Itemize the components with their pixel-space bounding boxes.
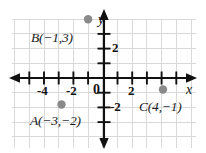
x-axis-label: x (186, 83, 192, 97)
y-axis-arrow-down (99, 138, 108, 149)
plotted-point-c (159, 85, 167, 93)
point-label-b: B(−1,3) (31, 31, 73, 45)
plotted-point-a (57, 100, 65, 108)
x-tick-label-neg2: -2 (66, 84, 77, 97)
coordinate-plane-figure: y x -4 -2 0 2 2 -2 B(−1,3) A(−3,−2) C(4,… (0, 0, 206, 153)
y-axis-label: y (98, 13, 104, 27)
y-tick-label-neg2: -2 (110, 100, 121, 113)
x-tick-label-neg4: -4 (37, 84, 48, 97)
x-tick-label-zero: 0 (93, 83, 100, 97)
point-label-c: C(4,−1) (139, 100, 182, 114)
x-tick-label-pos2: 2 (128, 84, 135, 97)
point-label-a: A(−3,−2) (30, 114, 81, 128)
plotted-point-b (84, 15, 92, 23)
y-tick-label-pos2: 2 (112, 41, 119, 54)
